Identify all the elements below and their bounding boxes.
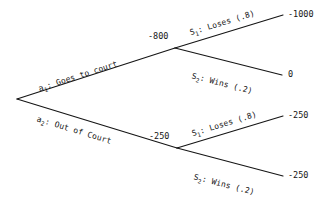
- payoff-lower-s1: -250: [288, 111, 308, 120]
- node-value-lower: -250: [149, 132, 169, 141]
- decision-tree-diagram: a1: Goes to court a2: Out of Court S1: L…: [0, 0, 333, 197]
- node-value-upper: -800: [148, 32, 168, 41]
- tree-edges: [0, 0, 333, 197]
- payoff-upper-s1: -1000: [288, 10, 314, 19]
- lower-s2-separator: :: [201, 175, 208, 185]
- payoff-upper-s2: 0: [288, 70, 293, 79]
- upper-s2-separator: :: [199, 74, 206, 84]
- action-a2-separator: :: [44, 117, 51, 127]
- edge-upper-s2-wins: [175, 48, 282, 75]
- payoff-lower-s2: -250: [288, 171, 308, 180]
- edge-lower-s2-wins: [177, 148, 283, 176]
